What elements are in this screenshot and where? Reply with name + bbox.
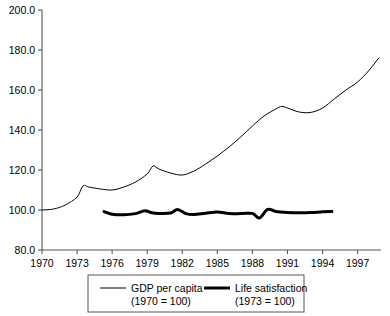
legend-sublabel: (1973 = 100) xyxy=(235,295,295,307)
x-axis-tick-label: 1979 xyxy=(136,257,160,269)
y-axis-tick-label: 180.0 xyxy=(9,44,35,56)
series-lines xyxy=(42,58,379,218)
legend-sublabel: (1970 = 100) xyxy=(131,295,191,307)
y-axis-tick-label: 120.0 xyxy=(9,164,35,176)
chart-legend: GDP per capita(1970 = 100)Life satisfact… xyxy=(88,275,308,312)
legend-label: Life satisfaction xyxy=(235,282,308,294)
legend-label: GDP per capita xyxy=(131,282,203,294)
x-axis-tick-label: 1985 xyxy=(206,257,230,269)
x-axis-tick-label: 1973 xyxy=(65,257,89,269)
y-axis-tick-label: 140.0 xyxy=(9,124,35,136)
y-axis-tick-label: 100.0 xyxy=(9,204,35,216)
line-chart: 80.0100.0120.0140.0160.0180.0200.0 19701… xyxy=(0,0,390,316)
chart-container: 80.0100.0120.0140.0160.0180.0200.0 19701… xyxy=(0,0,390,316)
x-axis-tick-label: 1994 xyxy=(311,257,335,269)
x-axis-tick-label: 1976 xyxy=(100,257,124,269)
x-axis-tick-label: 1970 xyxy=(30,257,54,269)
series-line-life-satisfaction xyxy=(104,209,332,218)
y-axis-tick-label: 160.0 xyxy=(9,84,35,96)
x-axis-tick-label: 1988 xyxy=(241,257,265,269)
x-axis-tick-label: 1982 xyxy=(171,257,195,269)
y-axis: 80.0100.0120.0140.0160.0180.0200.0 xyxy=(9,4,42,256)
y-axis-tick-label: 200.0 xyxy=(9,4,35,16)
series-line-gdp-per-capita xyxy=(42,58,379,210)
x-axis-tick-label: 1997 xyxy=(346,257,370,269)
y-axis-tick-label: 80.0 xyxy=(15,244,36,256)
plot-area: 80.0100.0120.0140.0160.0180.0200.0 19701… xyxy=(9,4,381,312)
x-axis-tick-label: 1991 xyxy=(276,257,300,269)
x-axis: 1970197319761979198219851988199119941997 xyxy=(30,250,381,269)
